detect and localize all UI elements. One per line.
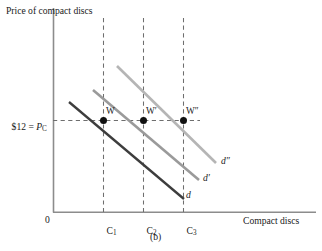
- price-reference-subscript: C: [42, 125, 47, 133]
- demand-curve-d-double-prime: [117, 66, 216, 163]
- reference-lines-group: [53, 18, 200, 212]
- curve-label-d: d: [186, 190, 191, 201]
- y-axis-title: Price of compact discs: [6, 6, 68, 17]
- equilibrium-point-w-prime: [140, 117, 147, 124]
- curve-label-d-prime: d′: [203, 173, 210, 184]
- curve-label-d-double-prime: d″: [221, 156, 230, 167]
- equilibrium-point-w: [100, 117, 107, 124]
- x-tick-sub-c1: 1: [113, 229, 117, 237]
- price-reference-prefix: $12 =: [12, 121, 37, 132]
- point-label-w: W: [106, 106, 115, 116]
- origin-label: 0: [45, 215, 50, 226]
- price-reference-label: $12 = PC: [2, 111, 47, 144]
- demand-curves-group: [69, 66, 216, 199]
- demand-curve-figure: Price of compact discs Compact discs $12…: [0, 0, 322, 251]
- panel-caption: (b): [150, 232, 161, 243]
- point-label-w-prime: W′: [146, 106, 157, 116]
- x-tick-sub-c3: 3: [193, 229, 197, 237]
- equilibrium-point-w-double-prime: [180, 117, 187, 124]
- x-tick-label-c1: C1: [97, 215, 117, 248]
- axis-group: [53, 8, 316, 213]
- x-tick-label-c3: C3: [177, 215, 197, 248]
- x-axis-title: Compact discs: [243, 216, 299, 227]
- point-label-w-double-prime: W″: [186, 106, 199, 116]
